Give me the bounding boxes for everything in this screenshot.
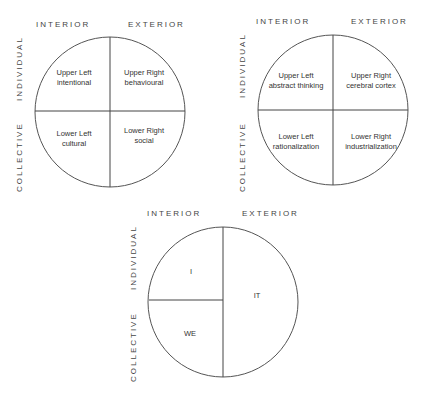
quadrant-upper-left-title: Upper Left (278, 71, 314, 80)
four-quadrants-figure: INTERIOR EXTERIOR INDIVIDUAL COLLECTIVE … (0, 0, 421, 400)
quadrant-lower-right-desc: social (134, 136, 154, 145)
label-interior: INTERIOR (36, 20, 90, 29)
quadrant-upper-left-desc: abstract thinking (269, 81, 324, 90)
label-individual: INDIVIDUAL (129, 225, 138, 290)
quadrant-lower-right-desc: industrialization (345, 142, 397, 151)
quadrant-lower-left-desc: cultural (62, 139, 87, 148)
label-exterior: EXTERIOR (242, 209, 299, 218)
quadrant-lower-right-title: Lower Right (351, 132, 392, 141)
diagram-big-three: INTERIOR EXTERIOR INDIVIDUAL COLLECTIVE … (129, 209, 299, 382)
label-collective: COLLECTIVE (238, 122, 247, 192)
quadrant-lower-left-desc: rationalization (273, 142, 319, 151)
quadrant-upper-right-desc: behavioural (125, 78, 164, 87)
quadrant-upper-left-title: Upper Left (56, 68, 92, 77)
label-individual: INDIVIDUAL (238, 33, 247, 98)
label-exterior: EXTERIOR (128, 20, 185, 29)
quadrant-upper-right-title: Upper Right (351, 71, 392, 80)
quadrant-upper-right-title: Upper Right (124, 68, 165, 77)
region-we-label: WE (184, 329, 196, 338)
quadrant-lower-left-title: Lower Left (278, 132, 314, 141)
diagram-basic-quadrants: INTERIOR EXTERIOR INDIVIDUAL COLLECTIVE … (15, 20, 185, 192)
label-exterior: EXTERIOR (351, 17, 408, 26)
quadrant-lower-right-title: Lower Right (124, 126, 165, 135)
label-interior: INTERIOR (147, 209, 201, 218)
quadrant-upper-left-desc: intentional (57, 78, 92, 87)
region-it-label: IT (254, 291, 261, 300)
quadrant-upper-right-desc: cerebral cortex (346, 81, 396, 90)
label-collective: COLLECTIVE (15, 122, 24, 192)
diagram-example-quadrants: INTERIOR EXTERIOR INDIVIDUAL COLLECTIVE … (238, 17, 408, 192)
quadrant-lower-left-title: Lower Left (56, 129, 92, 138)
label-individual: INDIVIDUAL (15, 36, 24, 101)
label-collective: COLLECTIVE (129, 312, 138, 382)
label-interior: INTERIOR (256, 17, 310, 26)
region-i-label: I (190, 267, 192, 276)
